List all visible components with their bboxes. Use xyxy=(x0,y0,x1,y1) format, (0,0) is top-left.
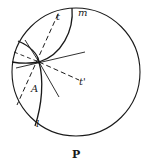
boundary-circle xyxy=(12,8,140,136)
label-t: t xyxy=(56,11,61,22)
diagram-canvas: t m t' A l P xyxy=(0,0,152,165)
solid-line-upper xyxy=(25,40,39,62)
label-t-prime: t' xyxy=(79,76,86,87)
label-l: l xyxy=(36,118,39,129)
label-A: A xyxy=(30,83,38,94)
intersection-point xyxy=(37,60,40,63)
caption-P: P xyxy=(72,148,80,161)
solid-line-horizontal xyxy=(16,52,85,68)
label-m: m xyxy=(78,7,87,18)
dashed-line-t-prime xyxy=(39,62,79,80)
